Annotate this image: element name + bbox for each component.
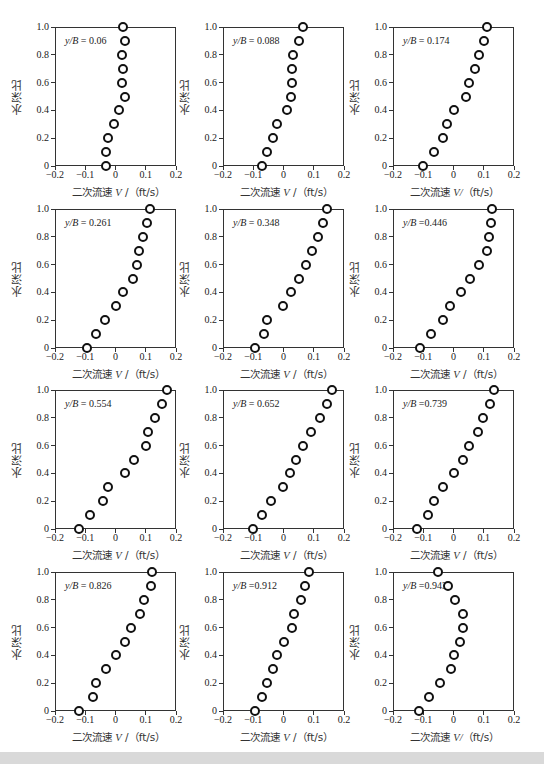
data-point: [120, 468, 130, 478]
y-tick-label: 0.6: [363, 623, 387, 633]
x-tick-label: 0: [101, 352, 131, 362]
y-axis-title: 水深比: [10, 79, 26, 115]
x-axis-title: 二次流速 V /（ft/s）: [72, 729, 165, 744]
y-tick-label: 1.0: [363, 22, 387, 32]
x-axis-title: 二次流速 V /（ft/s）: [72, 547, 165, 562]
x-tick-label: 0.2: [499, 170, 529, 180]
data-point: [414, 706, 424, 716]
y-tick-label: 0.8: [363, 413, 387, 423]
y-tick-label: 0.6: [25, 441, 49, 451]
data-point: [482, 22, 492, 32]
x-tick-label: −0.1: [408, 533, 438, 543]
data-point: [287, 78, 297, 88]
y-tick-label: 0.2: [193, 315, 217, 325]
data-point: [446, 664, 456, 674]
plot-area: [223, 390, 344, 529]
y-tick: [389, 599, 393, 600]
data-point: [482, 246, 492, 256]
data-point: [424, 692, 434, 702]
data-point: [74, 524, 84, 534]
y-tick: [51, 320, 55, 321]
data-point: [282, 105, 292, 115]
data-point: [294, 36, 304, 46]
panel-annotation: y/B =0.446: [403, 217, 447, 228]
y-tick: [389, 236, 393, 237]
x-tick-label: −0.1: [238, 715, 268, 725]
data-point: [296, 595, 306, 605]
y-tick-label: 0.8: [193, 50, 217, 60]
data-point: [479, 36, 489, 46]
data-point: [114, 105, 124, 115]
data-point: [141, 441, 151, 451]
y-axis-title: 水深比: [10, 624, 26, 660]
y-tick: [389, 445, 393, 446]
data-point: [286, 92, 296, 102]
panel-annotation: y/B = 0.554: [65, 398, 111, 409]
y-tick-label: 0.8: [193, 232, 217, 242]
x-tick-label: 0.1: [469, 533, 499, 543]
y-tick: [51, 390, 55, 391]
y-tick-label: 0.8: [25, 50, 49, 60]
data-point: [139, 595, 149, 605]
y-tick: [219, 599, 223, 600]
bottom-bar: [0, 752, 544, 764]
y-tick-label: 0.4: [193, 105, 217, 115]
data-point: [142, 218, 152, 228]
x-tick-label: 0.2: [329, 533, 359, 543]
y-tick-label: 0.8: [25, 595, 49, 605]
data-point: [474, 50, 484, 60]
x-tick-label: 0.2: [161, 715, 191, 725]
y-tick: [219, 264, 223, 265]
y-tick-label: 0.8: [25, 413, 49, 423]
y-tick: [389, 473, 393, 474]
y-tick: [389, 82, 393, 83]
data-point: [109, 119, 119, 129]
data-point: [250, 706, 260, 716]
data-point: [117, 50, 127, 60]
data-point: [289, 609, 299, 619]
x-tick-label: 0.1: [469, 715, 499, 725]
y-tick-label: 0.2: [25, 496, 49, 506]
y-tick: [389, 138, 393, 139]
x-tick-label: 0.1: [299, 352, 329, 362]
y-tick-label: 1.0: [25, 22, 49, 32]
data-point: [449, 650, 459, 660]
data-point: [103, 482, 113, 492]
y-tick-label: 0.4: [25, 105, 49, 115]
data-point: [111, 650, 121, 660]
x-tick-label: −0.2: [40, 352, 70, 362]
data-point: [120, 92, 130, 102]
x-axis-title: 二次流速 V /（ft/s）: [240, 729, 333, 744]
data-point: [129, 455, 139, 465]
data-point: [298, 441, 308, 451]
data-point: [143, 427, 153, 437]
plot-area: [223, 27, 344, 166]
data-point: [138, 232, 148, 242]
x-tick-label: −0.1: [70, 533, 100, 543]
panel-annotation: y/B = 0.261: [65, 217, 111, 228]
y-tick: [219, 320, 223, 321]
data-point: [473, 427, 483, 437]
y-tick-label: 0.6: [193, 78, 217, 88]
data-point: [134, 246, 144, 256]
x-tick-label: 0.2: [499, 715, 529, 725]
data-point: [103, 133, 113, 143]
x-tick-label: 0: [439, 715, 469, 725]
panel-annotation: y/B = 0.826: [65, 580, 111, 591]
y-tick: [51, 236, 55, 237]
x-tick-label: 0: [101, 170, 131, 180]
data-point: [91, 678, 101, 688]
data-point: [313, 232, 323, 242]
data-point: [438, 133, 448, 143]
data-point: [301, 260, 311, 270]
y-tick-label: 0.2: [363, 496, 387, 506]
y-tick: [389, 320, 393, 321]
x-tick-label: −0.1: [408, 352, 438, 362]
y-tick: [51, 292, 55, 293]
data-point: [268, 664, 278, 674]
data-point: [257, 692, 267, 702]
panel-annotation: y/B = 0.06: [65, 35, 106, 46]
plot-area: [55, 390, 176, 529]
x-tick-label: 0.1: [469, 170, 499, 180]
y-tick-label: 1.0: [363, 204, 387, 214]
